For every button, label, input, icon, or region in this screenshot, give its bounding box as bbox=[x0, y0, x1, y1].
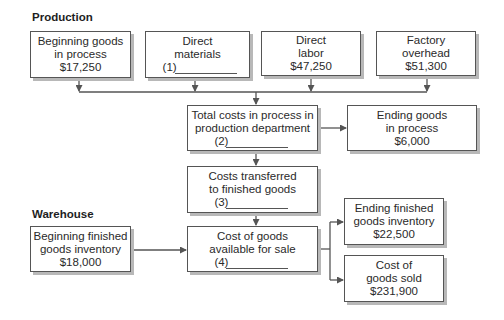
box-text: goods inventory bbox=[40, 243, 121, 256]
box-text: Cost of goods bbox=[217, 230, 288, 243]
box-value: $51,300 bbox=[405, 60, 447, 73]
blank-underline bbox=[226, 198, 288, 209]
blank-underline bbox=[175, 63, 237, 74]
box-text: Cost of bbox=[376, 259, 412, 272]
cost-of-goods-sold-box: Cost of goods sold $231,900 bbox=[344, 255, 444, 302]
total-costs-in-process-box: Total costs in process in production dep… bbox=[187, 105, 318, 151]
box-text: Beginning finished bbox=[34, 230, 128, 243]
ending-goods-in-process-box: Ending goods in process $6,000 bbox=[347, 105, 477, 151]
box-value: $22,500 bbox=[373, 228, 415, 241]
direct-labor-box: Direct labor $47,250 bbox=[261, 31, 361, 76]
factory-overhead-box: Factory overhead $51,300 bbox=[376, 31, 476, 76]
box-value: $47,250 bbox=[290, 60, 332, 73]
box-text: Factory bbox=[407, 34, 445, 47]
box-text: goods sold bbox=[366, 272, 422, 285]
box-value: $6,000 bbox=[394, 135, 429, 148]
box-text: Costs transferred bbox=[208, 170, 296, 183]
box-value: $18,000 bbox=[60, 256, 102, 269]
costs-transferred-box: Costs transferred to finished goods (3) bbox=[187, 166, 318, 213]
box-text: overhead bbox=[402, 47, 450, 60]
box-value: $231,900 bbox=[370, 285, 418, 298]
box-text: Beginning goods bbox=[38, 35, 124, 48]
box-value: $17,250 bbox=[60, 61, 102, 74]
answer-blank-2: (2) bbox=[214, 135, 290, 148]
cost-of-goods-available-box: Cost of goods available for sale (4) bbox=[187, 226, 318, 272]
blank-underline bbox=[226, 258, 288, 269]
box-text: to finished goods bbox=[209, 183, 296, 196]
box-text: Direct bbox=[296, 34, 326, 47]
box-text: materials bbox=[174, 48, 221, 61]
blank-underline bbox=[226, 137, 288, 148]
box-text: available for sale bbox=[209, 243, 295, 256]
box-text: production department bbox=[195, 122, 310, 135]
answer-blank-1: (1) bbox=[163, 61, 233, 74]
box-text: Direct bbox=[182, 35, 212, 48]
box-text: Ending finished bbox=[355, 202, 434, 215]
box-text: labor bbox=[298, 47, 324, 60]
beginning-finished-goods-box: Beginning finished goods inventory $18,0… bbox=[30, 226, 131, 272]
box-text: in process bbox=[54, 48, 106, 61]
box-text: Total costs in process in bbox=[191, 109, 313, 122]
box-text: in process bbox=[386, 122, 438, 135]
beginning-goods-in-process-box: Beginning goods in process $17,250 bbox=[30, 31, 131, 78]
box-text: Ending goods bbox=[377, 109, 447, 122]
answer-blank-3: (3) bbox=[214, 196, 290, 209]
box-text: goods inventory bbox=[353, 215, 434, 228]
ending-finished-goods-box: Ending finished goods inventory $22,500 bbox=[344, 198, 444, 245]
direct-materials-box: Direct materials (1) bbox=[145, 31, 250, 78]
answer-blank-4: (4) bbox=[214, 256, 290, 269]
